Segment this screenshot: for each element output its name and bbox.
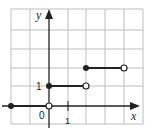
y-axis-label: y <box>35 8 42 22</box>
closed-dot <box>83 65 89 71</box>
origin-label: 0 <box>39 110 45 121</box>
y-tick-label-1: 1 <box>36 81 42 92</box>
open-dot <box>121 65 127 71</box>
closed-dot <box>46 83 52 89</box>
open-dot <box>46 103 52 109</box>
y-axis-arrow-icon <box>45 9 53 19</box>
step-function-graph: y x 0 1 1 <box>0 0 152 134</box>
x-axis-label: x <box>130 109 137 123</box>
closed-dot <box>8 103 14 109</box>
x-tick-label-1: 1 <box>65 116 70 126</box>
open-dot <box>83 83 89 89</box>
